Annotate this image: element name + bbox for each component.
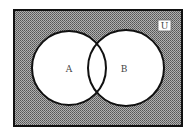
universe-label: U [161,21,169,31]
venn-svg: U A B [0,0,191,134]
venn-diagram: U A B [0,0,191,134]
set-b-label: B [121,64,128,74]
set-a-label: A [65,64,73,74]
universe-label-box: U [158,20,171,31]
